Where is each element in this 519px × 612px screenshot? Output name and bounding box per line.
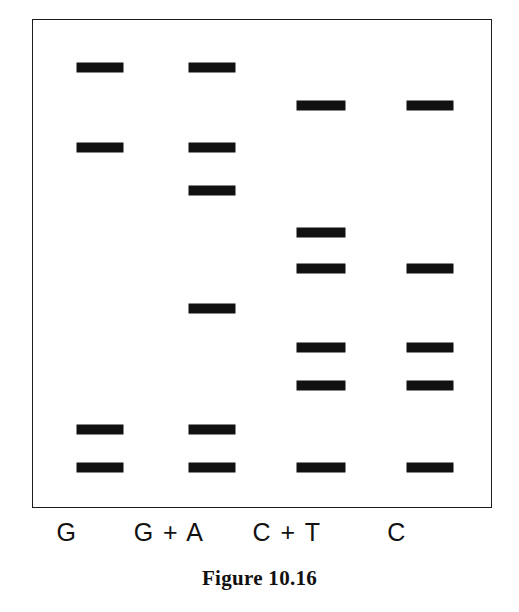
gel-band xyxy=(297,343,345,352)
lane-label-ct: C + T xyxy=(227,516,347,548)
gel-band xyxy=(189,63,235,72)
gel-band xyxy=(189,186,235,195)
gel-band xyxy=(297,463,345,472)
figure-caption: Figure 10.16 xyxy=(0,566,519,591)
lane-label-ga: G + A xyxy=(109,516,229,548)
gel-band xyxy=(297,228,345,237)
gel-band xyxy=(189,463,235,472)
gel-band xyxy=(297,264,345,273)
gel-band xyxy=(77,425,123,434)
lane-label-row: GG + AC + TC xyxy=(32,516,492,556)
gel-band xyxy=(407,101,453,110)
gel-band xyxy=(77,463,123,472)
gel-band xyxy=(189,143,235,152)
lane-label-c: C xyxy=(337,516,457,548)
gel-plate xyxy=(32,19,492,508)
gel-band xyxy=(407,463,453,472)
figure-container: GG + AC + TC Figure 10.16 xyxy=(0,0,519,612)
gel-band xyxy=(297,381,345,390)
gel-band xyxy=(297,101,345,110)
gel-band xyxy=(189,425,235,434)
gel-band xyxy=(407,264,453,273)
gel-band xyxy=(407,343,453,352)
gel-band xyxy=(77,143,123,152)
gel-band xyxy=(189,304,235,313)
gel-band xyxy=(77,63,123,72)
gel-band xyxy=(407,381,453,390)
